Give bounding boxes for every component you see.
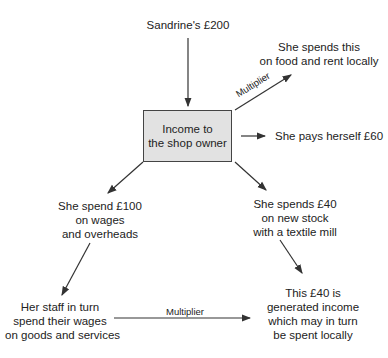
text-line: and overheads [40, 227, 160, 241]
source-label: Sandrine's £200 [138, 18, 238, 32]
generated-income-node: This £40 is generated income which may i… [258, 286, 368, 342]
text-line: on new stock [240, 211, 350, 225]
staff-node: Her staff in turn spend their wages on g… [5, 300, 115, 342]
pays-herself-node: She pays herself £60 [275, 129, 383, 143]
text-line: She spends £40 [240, 197, 350, 211]
text-line: She spends this [250, 40, 388, 54]
text-line: which may in turn [258, 314, 368, 328]
text-line: with a textile mill [240, 225, 350, 239]
text-line: on goods and services [5, 328, 115, 342]
income-box: Income to the shop owner [143, 110, 232, 162]
multiplier-diagram: Sandrine's £200 Income to the shop owner… [0, 0, 388, 358]
top-right-node: She spends this on food and rent locally [250, 40, 388, 68]
text-line: on wages [40, 213, 160, 227]
text-line: spend their wages [5, 314, 115, 328]
box-line-2: the shop owner [148, 136, 227, 150]
text-line: generated income [258, 300, 368, 314]
text-line: This £40 is [258, 286, 368, 300]
text-line: She spend £100 [40, 199, 160, 213]
text-line: Her staff in turn [5, 300, 115, 314]
stock-node: She spends £40 on new stock with a texti… [240, 197, 350, 239]
wages-node: She spend £100 on wages and overheads [40, 199, 160, 241]
multiplier-label-bottom: Multiplier [160, 305, 210, 319]
box-line-1: Income to [148, 122, 227, 136]
text-line: on food and rent locally [250, 54, 388, 68]
text-line: be spent locally [258, 328, 368, 342]
